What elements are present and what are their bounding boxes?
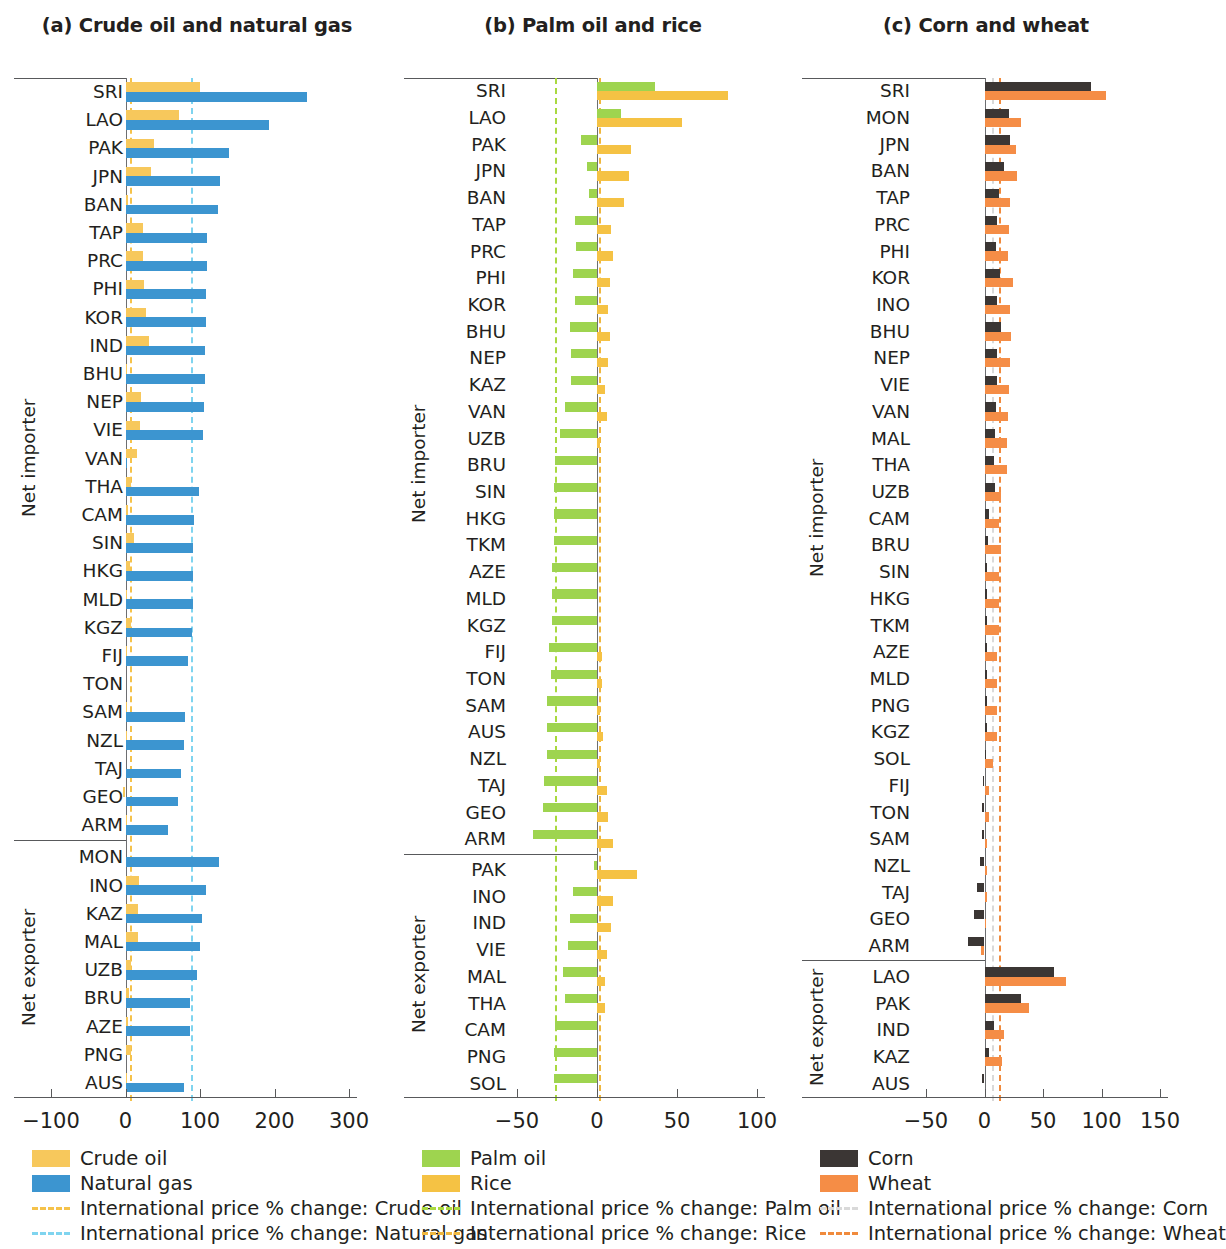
category-label: NZL bbox=[86, 732, 123, 751]
bar-corn bbox=[985, 536, 989, 545]
category-label: PNG bbox=[467, 1048, 506, 1067]
bar-rice bbox=[597, 950, 607, 959]
bar-wheat bbox=[985, 358, 1011, 367]
category-label: FIJ bbox=[101, 647, 123, 666]
legend-item[interactable]: International price % change: Crude oil bbox=[32, 1196, 414, 1221]
legend-item[interactable]: Rice bbox=[422, 1171, 808, 1196]
category-label: BRU bbox=[84, 989, 123, 1008]
category-label: KGZ bbox=[84, 619, 123, 638]
x-axis-tick bbox=[126, 1089, 127, 1097]
bar-natural-gas bbox=[126, 92, 307, 102]
bar-palm-oil bbox=[570, 322, 597, 331]
bar-corn bbox=[985, 1021, 994, 1030]
bar-corn bbox=[985, 189, 999, 198]
category-label: AUS bbox=[468, 723, 506, 742]
bar-wheat bbox=[985, 438, 1007, 447]
legend-item[interactable]: International price % change: Natural ga… bbox=[32, 1221, 414, 1246]
category-label: AZE bbox=[873, 643, 910, 662]
bar-wheat bbox=[985, 572, 999, 581]
category-label: CAM bbox=[81, 506, 123, 525]
importer-exporter-divider-rule bbox=[404, 854, 597, 855]
bar-palm-oil bbox=[554, 483, 597, 492]
legend-swatch-icon bbox=[422, 1175, 460, 1192]
bar-crude-oil bbox=[126, 364, 127, 374]
group-label-importer: Net importer bbox=[18, 398, 39, 516]
legend-item[interactable]: Palm oil bbox=[422, 1146, 808, 1171]
legend-item[interactable]: International price % change: Palm oil bbox=[422, 1196, 808, 1221]
category-label: IND bbox=[89, 337, 123, 356]
importer-group-top-rule bbox=[14, 78, 126, 79]
panel-c-legend: CornWheatInternational price % change: C… bbox=[820, 1146, 1196, 1246]
category-label: UZB bbox=[467, 430, 506, 449]
legend-dashed-line-icon bbox=[422, 1232, 460, 1235]
bar-palm-oil bbox=[552, 563, 597, 572]
x-axis-tick-label: 0 bbox=[978, 1109, 991, 1133]
category-label: SAM bbox=[869, 830, 910, 849]
category-label: BRU bbox=[467, 456, 506, 475]
panel-c-plot-area: SRIMONJPNBANTAPPRCPHIKORINOBHUNEPVIEVANM… bbox=[792, 0, 1180, 1249]
x-axis-tick bbox=[985, 1089, 986, 1097]
bar-palm-oil bbox=[555, 1021, 597, 1030]
bar-wheat bbox=[985, 305, 1011, 314]
bar-natural-gas bbox=[126, 487, 200, 497]
x-axis-tick-label: 300 bbox=[329, 1109, 369, 1133]
bar-palm-oil bbox=[565, 994, 597, 1003]
bar-corn bbox=[985, 994, 1021, 1003]
category-label: PRC bbox=[87, 252, 123, 271]
bar-wheat bbox=[985, 679, 998, 688]
bar-corn bbox=[985, 242, 997, 251]
legend-item[interactable]: Natural gas bbox=[32, 1171, 414, 1196]
bar-palm-oil bbox=[575, 296, 597, 305]
legend-item[interactable]: International price % change: Corn bbox=[820, 1196, 1196, 1221]
category-label: GEO bbox=[465, 804, 506, 823]
panel-b-plot-area: SRILAOPAKJPNBANTAPPRCPHIKORBHUNEPKAZVANU… bbox=[394, 0, 792, 1249]
bar-wheat bbox=[985, 919, 986, 928]
legend-label: Wheat bbox=[868, 1172, 931, 1195]
category-label: SOL bbox=[873, 750, 910, 769]
x-axis-tick bbox=[517, 1089, 518, 1097]
bar-corn bbox=[985, 162, 1005, 171]
legend-item[interactable]: International price % change: Rice bbox=[422, 1221, 808, 1246]
legend-item[interactable]: Crude oil bbox=[32, 1146, 414, 1171]
bar-natural-gas bbox=[126, 374, 206, 384]
bar-corn bbox=[985, 296, 998, 305]
bar-corn bbox=[985, 456, 994, 465]
legend-item[interactable]: Corn bbox=[820, 1146, 1196, 1171]
bar-palm-oil bbox=[571, 349, 597, 358]
bar-wheat bbox=[985, 118, 1021, 127]
bar-rice bbox=[597, 1003, 605, 1012]
category-label: BAN bbox=[467, 189, 506, 208]
bar-crude-oil bbox=[126, 392, 142, 402]
bar-corn bbox=[985, 349, 998, 358]
panel-corn-wheat: (c) Corn and wheat SRIMONJPNBANTAPPRCPHI… bbox=[792, 0, 1180, 1249]
category-label: LAO bbox=[468, 109, 506, 128]
category-label: HKG bbox=[466, 510, 506, 529]
bar-wheat bbox=[985, 251, 1008, 260]
x-axis-tick-label: 100 bbox=[180, 1109, 220, 1133]
bar-rice bbox=[597, 786, 607, 795]
legend-item[interactable]: International price % change: Wheat bbox=[820, 1221, 1196, 1246]
category-label: SRI bbox=[880, 82, 910, 101]
category-label: INO bbox=[89, 877, 123, 896]
bar-corn bbox=[985, 509, 990, 518]
category-label: UZB bbox=[871, 483, 910, 502]
bar-wheat bbox=[985, 171, 1018, 180]
bar-wheat bbox=[985, 1030, 1005, 1039]
bar-wheat bbox=[985, 492, 1001, 501]
bar-natural-gas bbox=[126, 205, 218, 215]
bar-corn bbox=[980, 857, 985, 866]
bar-wheat bbox=[985, 1003, 1029, 1012]
category-label: SIN bbox=[92, 534, 123, 553]
bar-palm-oil bbox=[555, 456, 597, 465]
bar-crude-oil bbox=[126, 251, 144, 261]
x-axis-line bbox=[14, 1097, 357, 1098]
category-label: JPN bbox=[476, 162, 506, 181]
panel-a-plot-area: SRILAOPAKJPNBANTAPPRCPHIKORINDBHUNEPVIEV… bbox=[0, 0, 394, 1249]
category-label: PAK bbox=[471, 136, 506, 155]
category-label: KAZ bbox=[469, 376, 506, 395]
legend-item[interactable]: Wheat bbox=[820, 1171, 1196, 1196]
bar-palm-oil bbox=[554, 1074, 597, 1083]
category-label: THA bbox=[468, 995, 506, 1014]
legend-swatch-icon bbox=[32, 1175, 70, 1192]
bar-palm-oil bbox=[549, 643, 597, 652]
